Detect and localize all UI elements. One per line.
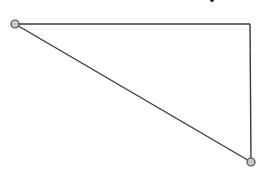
- edge-right: [250, 24, 251, 162]
- edge-hypotenuse: [15, 24, 251, 162]
- vertex-node-bottom-right[interactable]: [247, 158, 255, 166]
- triangle-diagram: [0, 0, 257, 172]
- vertex-node-left[interactable]: [11, 20, 19, 28]
